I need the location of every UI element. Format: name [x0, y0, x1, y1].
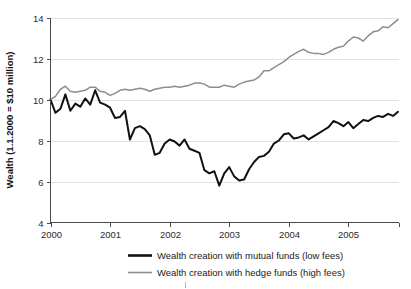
chart-background — [0, 0, 411, 289]
y-tick-label-10: 10 — [33, 95, 44, 106]
wealth-creation-line-chart: 468101214 200020012002200320042005 Wealt… — [0, 0, 411, 289]
legend-label-hedge-funds: Wealth creation with hedge funds (high f… — [157, 267, 345, 278]
y-tick-label-4: 4 — [38, 218, 43, 229]
chart-figure: 468101214 200020012002200320042005 Wealt… — [0, 0, 411, 289]
x-tick-label-2003: 2003 — [219, 229, 240, 240]
legend-item-mutual-funds: Wealth creation with mutual funds (low f… — [128, 250, 343, 261]
x-tick-label-2001: 2001 — [100, 229, 121, 240]
x-tick-label-2002: 2002 — [160, 229, 181, 240]
y-tick-label-6: 6 — [38, 177, 43, 188]
x-tick-label-2000: 2000 — [41, 229, 62, 240]
y-tick-label-14: 14 — [33, 13, 44, 24]
legend-item-hedge-funds: Wealth creation with hedge funds (high f… — [128, 267, 345, 278]
legend-label-mutual-funds: Wealth creation with mutual funds (low f… — [157, 250, 343, 261]
y-tick-label-8: 8 — [38, 136, 43, 147]
y-tick-label-12: 12 — [33, 54, 44, 65]
y-axis-title: Wealth (1.1.2000 = $10 million) — [4, 52, 15, 189]
x-tick-label-2005: 2005 — [338, 229, 359, 240]
x-tick-label-2004: 2004 — [279, 229, 300, 240]
